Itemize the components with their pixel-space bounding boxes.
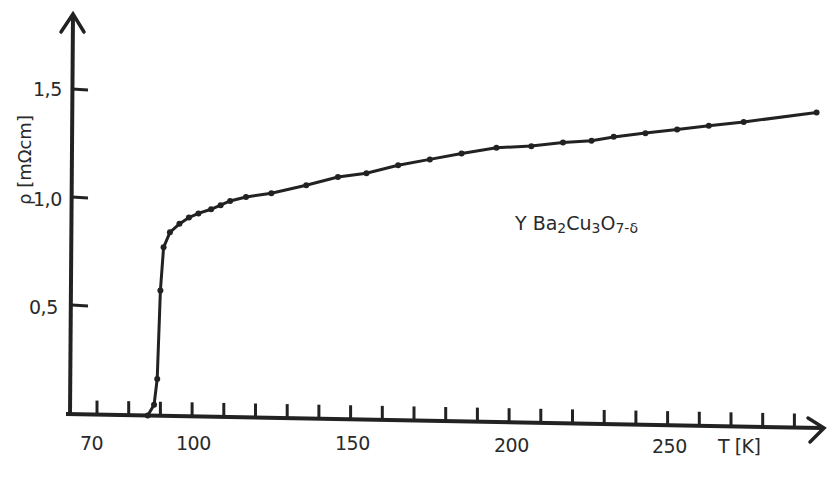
compound-formula-label: Y Ba2Cu3O7-δ xyxy=(515,212,638,234)
formula-sub: 2 xyxy=(557,220,566,236)
y-tick-label-1.5: 1,5 xyxy=(33,78,62,100)
x-axis-label: T [K] xyxy=(718,435,760,457)
x-axis xyxy=(66,414,822,428)
y-tick-label-1.0: 1,0 xyxy=(33,188,62,210)
formula-part: Y Ba xyxy=(515,212,557,234)
y-axis xyxy=(70,14,73,415)
y-tick-label-0.5: 0,5 xyxy=(29,296,58,318)
y-axis-label: ρ [mΩcm] xyxy=(14,115,35,205)
x-tick-label-70: 70 xyxy=(80,432,103,454)
formula-sub: 7-δ xyxy=(615,220,638,236)
x-ticks xyxy=(97,401,794,428)
formula-part: Cu xyxy=(566,212,591,234)
data-markers xyxy=(145,110,820,419)
formula-part: O xyxy=(600,212,615,234)
x-tick-label-100: 100 xyxy=(176,432,211,454)
data-curve xyxy=(141,113,816,416)
y-ticks xyxy=(72,89,88,306)
x-axis-arrow-icon xyxy=(808,418,824,442)
x-tick-label-200: 200 xyxy=(494,434,529,456)
resistivity-chart xyxy=(0,0,834,478)
formula-sub: 3 xyxy=(592,220,601,236)
x-tick-label-150: 150 xyxy=(335,432,370,454)
x-tick-label-250: 250 xyxy=(652,435,687,457)
